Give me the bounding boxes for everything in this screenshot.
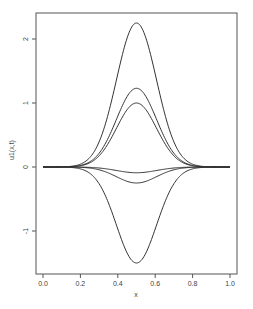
line-curve-6: [43, 167, 230, 263]
x-axis: 0.00.20.40.60.81.0: [38, 274, 235, 287]
y-tick-label: 1: [22, 101, 29, 105]
series-lines: [43, 23, 230, 263]
x-tick-label: 0.2: [76, 280, 86, 287]
line-curve-1: [43, 23, 230, 167]
line-chart: 0.00.20.40.60.81.0 -1012 x u1(x,t): [0, 0, 253, 309]
line-curve-3: [43, 103, 230, 167]
y-tick-label: 0: [22, 165, 29, 169]
y-tick-label: 2: [22, 37, 29, 41]
y-axis-title: u1(x,t): [8, 140, 16, 160]
x-tick-label: 0.0: [38, 280, 48, 287]
y-tick-label: -1: [22, 228, 29, 234]
x-axis-title: x: [134, 291, 138, 298]
y-axis: -1012: [22, 37, 36, 234]
plot-frame: [36, 13, 237, 274]
x-tick-label: 0.8: [188, 280, 198, 287]
line-curve-5: [43, 167, 230, 183]
x-tick-label: 1.0: [225, 280, 235, 287]
x-tick-label: 0.4: [113, 280, 123, 287]
x-tick-label: 0.6: [150, 280, 160, 287]
line-curve-2: [43, 88, 230, 167]
